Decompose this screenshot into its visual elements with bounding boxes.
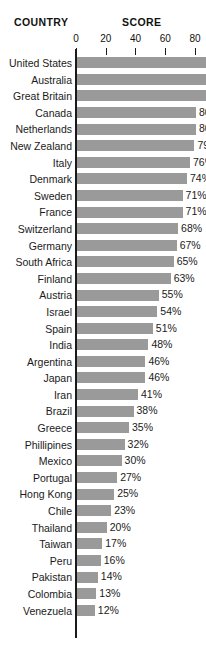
bar bbox=[77, 124, 196, 135]
country-label: Austria bbox=[0, 288, 72, 302]
bar-value-label: 71% bbox=[186, 189, 206, 202]
country-label: United States bbox=[0, 56, 72, 70]
bar bbox=[77, 422, 129, 433]
bar-value-label: 16% bbox=[104, 554, 125, 567]
chart-row: Switzerland68% bbox=[0, 221, 206, 238]
bar bbox=[77, 173, 187, 184]
chart-row: New Zealand79% bbox=[0, 138, 206, 155]
country-label: Hong Kong bbox=[0, 487, 72, 501]
x-tick-mark bbox=[106, 48, 107, 55]
chart-row: United States bbox=[0, 55, 206, 72]
country-label: Greece bbox=[0, 421, 72, 435]
country-label: Finland bbox=[0, 272, 72, 286]
chart-row: Sweden71% bbox=[0, 188, 206, 205]
bar bbox=[77, 555, 101, 566]
country-label: Spain bbox=[0, 322, 72, 336]
country-label: Japan bbox=[0, 371, 72, 385]
body-text-line: co bbox=[168, 519, 206, 535]
bar-value-label: 76% bbox=[193, 156, 206, 169]
chart-row: South Africa65% bbox=[0, 254, 206, 271]
country-label: Germany bbox=[0, 239, 72, 253]
country-column-header: COUNTRY bbox=[14, 16, 68, 28]
bar-value-label: 71% bbox=[186, 205, 206, 218]
bar-value-label: 63% bbox=[174, 272, 195, 285]
bar-value-label: 20% bbox=[110, 521, 131, 534]
bar-value-label: 14% bbox=[101, 570, 122, 583]
body-text-line: cultu bbox=[168, 613, 206, 629]
chart-page: COUNTRY SCORE 020406080 United StatesAus… bbox=[0, 0, 206, 645]
body-text-line: from bbox=[168, 628, 206, 644]
body-text-line: bac bbox=[168, 566, 206, 582]
bar bbox=[77, 306, 157, 317]
bar bbox=[77, 290, 159, 301]
chart-row: Mexico30% bbox=[0, 453, 206, 470]
bar bbox=[77, 107, 196, 118]
bar-value-label: 30% bbox=[125, 454, 146, 467]
article-body-text: Iwcoofnobacdirethe scultufrom bbox=[168, 488, 206, 644]
bar bbox=[77, 455, 122, 466]
country-label: Pakistan bbox=[0, 570, 72, 584]
country-label: Thailand bbox=[0, 521, 72, 535]
chart-row: India48% bbox=[0, 337, 206, 354]
x-tick-label: 0 bbox=[73, 33, 79, 44]
x-tick-label: 20 bbox=[100, 33, 111, 44]
bar bbox=[77, 572, 98, 583]
x-tick-mark bbox=[165, 48, 166, 55]
country-label: Colombia bbox=[0, 587, 72, 601]
country-label: New Zealand bbox=[0, 139, 72, 153]
score-column-header: SCORE bbox=[122, 16, 161, 28]
country-label: Great Britain bbox=[0, 89, 72, 103]
country-label: Argentina bbox=[0, 355, 72, 369]
country-label: Brazil bbox=[0, 404, 72, 418]
chart-row: Phillipines32% bbox=[0, 437, 206, 454]
bar-value-label: 25% bbox=[117, 487, 138, 500]
chart-row: Brazil38% bbox=[0, 403, 206, 420]
chart-row: Italy76% bbox=[0, 155, 206, 172]
chart-row: Iran41% bbox=[0, 387, 206, 404]
bar bbox=[77, 472, 117, 483]
country-label: Italy bbox=[0, 156, 72, 170]
body-text-line: w bbox=[168, 504, 206, 520]
bar-value-label: 80% bbox=[199, 106, 206, 119]
country-label: Netherlands bbox=[0, 122, 72, 136]
chart-row: Argentina46% bbox=[0, 354, 206, 371]
bar bbox=[77, 140, 194, 151]
bar-value-label: 23% bbox=[114, 504, 135, 517]
bar bbox=[77, 256, 174, 267]
bar bbox=[77, 605, 95, 616]
bar-value-label: 35% bbox=[132, 421, 153, 434]
country-label: Mexico bbox=[0, 454, 72, 468]
bar bbox=[77, 273, 171, 284]
bar bbox=[77, 190, 183, 201]
bar bbox=[77, 240, 177, 251]
chart-row: Greece35% bbox=[0, 420, 206, 437]
bar bbox=[77, 323, 153, 334]
chart-row: Spain51% bbox=[0, 321, 206, 338]
bar bbox=[77, 406, 134, 417]
bar bbox=[77, 522, 107, 533]
country-label: Taiwan bbox=[0, 537, 72, 551]
country-label: Phillipines bbox=[0, 438, 72, 452]
chart-row: Germany67% bbox=[0, 238, 206, 255]
bar-value-label: 17% bbox=[105, 537, 126, 550]
country-label: Peru bbox=[0, 554, 72, 568]
country-label: Iran bbox=[0, 388, 72, 402]
x-tick-mark bbox=[135, 48, 136, 55]
chart-row: Japan46% bbox=[0, 370, 206, 387]
bar bbox=[77, 372, 145, 383]
bar-value-label: 38% bbox=[137, 404, 158, 417]
bar-value-label: 12% bbox=[98, 604, 119, 617]
chart-row: Austria55% bbox=[0, 287, 206, 304]
bar-value-label: 46% bbox=[148, 355, 169, 368]
country-label: Denmark bbox=[0, 172, 72, 186]
body-text-line: the s bbox=[168, 597, 206, 613]
x-tick-label: 60 bbox=[160, 33, 171, 44]
country-label: South Africa bbox=[0, 255, 72, 269]
chart-row: Portugal27% bbox=[0, 470, 206, 487]
chart-header: COUNTRY SCORE bbox=[0, 16, 206, 30]
country-label: Australia bbox=[0, 73, 72, 87]
bar bbox=[77, 90, 206, 101]
chart-row: Great Britain bbox=[0, 88, 206, 105]
bar-value-label: 46% bbox=[148, 371, 169, 384]
chart-row: Finland63% bbox=[0, 271, 206, 288]
